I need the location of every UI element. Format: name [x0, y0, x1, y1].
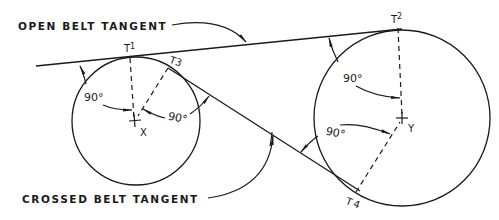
belt-tangent-diagram: OPEN BELT TANGENT CROSSED BELT TANGENT T… [0, 0, 499, 220]
angle-label-t4: 90° [325, 125, 347, 142]
angle-label-t2: 90° [343, 72, 363, 85]
point-t1-label: T1 [123, 42, 135, 54]
point-t2-label: T2 [390, 12, 402, 25]
center-y-label: Y [407, 123, 415, 134]
radius-t4 [356, 122, 400, 192]
radius-t3 [138, 68, 168, 116]
point-t4-label: T4 [343, 195, 361, 211]
open-belt-tangent-label: OPEN BELT TANGENT [18, 20, 167, 32]
crossed-belt-leader-arrow [208, 136, 273, 198]
open-belt-leader-arrow [172, 23, 246, 42]
radius-t1 [130, 58, 134, 118]
angle-arrow-t4-radius [340, 124, 390, 134]
angle-arrow-t4-tangent [301, 136, 318, 152]
angle-arrow-t1-radius [103, 105, 132, 110]
angle-arrow-t3-radius [143, 109, 165, 118]
crossed-belt-tangent-label: CROSSED BELT TANGENT [22, 193, 199, 205]
center-x-label: X [140, 127, 147, 138]
angle-arrow-t2-radius [356, 86, 400, 98]
angle-arrow-t2-tangent [329, 38, 338, 62]
angle-label-t3: 90° [167, 110, 189, 127]
open-belt-tangent-line [36, 29, 402, 66]
radius-t2 [398, 28, 402, 115]
angle-label-t1: 90° [84, 91, 104, 104]
angle-arrow-t1-tangent [80, 66, 86, 84]
center-y-marker [396, 112, 408, 124]
center-x-marker [129, 114, 141, 127]
